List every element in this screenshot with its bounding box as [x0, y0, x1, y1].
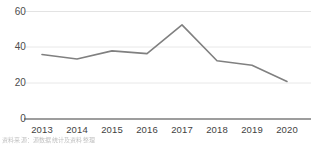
y-tick-label-20: 20	[0, 78, 26, 88]
x-tick-label-2014: 2014	[66, 124, 88, 135]
x-tick-label-2019: 2019	[241, 124, 263, 135]
x-tick-label-2018: 2018	[206, 124, 228, 135]
x-tick-label-2015: 2015	[101, 124, 123, 135]
source-caption: 资料来源：源数据统计及资料整理	[2, 137, 95, 144]
y-tick-label-60: 60	[0, 7, 26, 17]
y-tick-label-0: 0	[0, 114, 26, 124]
y-tick-label-40: 40	[0, 42, 26, 52]
data-line-series-1	[42, 25, 287, 82]
x-tick-label-2016: 2016	[136, 124, 158, 135]
plot-area: 60 40 20 0 2013 2014 2015 2016 2017 2018…	[0, 0, 318, 146]
x-tick-label-2017: 2017	[171, 124, 193, 135]
x-tick-label-2013: 2013	[31, 124, 53, 135]
x-tick-label-2020: 2020	[276, 124, 298, 135]
line-chart: 60 40 20 0 2013 2014 2015 2016 2017 2018…	[0, 0, 318, 146]
